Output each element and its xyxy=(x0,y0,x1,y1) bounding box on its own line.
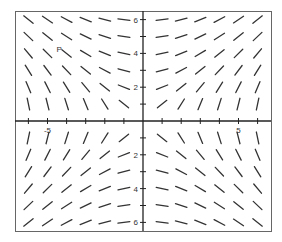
y-tick-label: 4 xyxy=(134,185,139,194)
y-tick-label: 6 xyxy=(134,16,139,25)
y-tick-label: 2 xyxy=(134,151,139,160)
point-annotation: P xyxy=(57,45,62,54)
x-tick-label: 5 xyxy=(236,126,241,135)
y-tick-label: 6 xyxy=(134,218,139,227)
y-tick-label: 2 xyxy=(134,83,139,92)
y-tick-label: 4 xyxy=(134,49,139,58)
x-tick-label: -5 xyxy=(44,126,52,135)
slope-field-chart: 642246-55 P xyxy=(0,0,282,242)
